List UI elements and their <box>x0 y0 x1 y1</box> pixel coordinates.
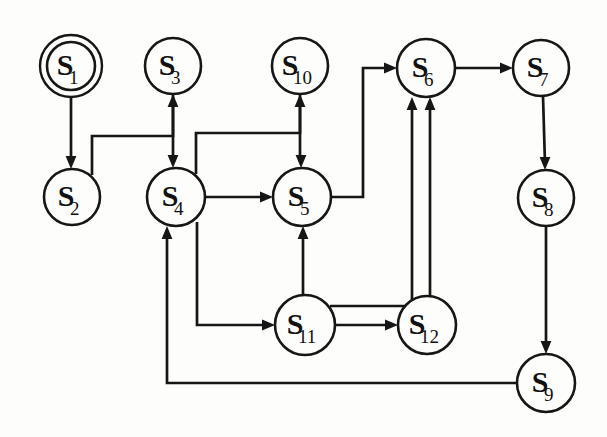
edge-s5-s6-arrowhead <box>384 63 397 74</box>
state-node-s7[interactable]: S7 <box>513 40 569 96</box>
edge-s6-s7-arrowhead <box>500 63 513 74</box>
edge-s9-s4-arrowhead <box>162 226 173 239</box>
edge-s1-s2 <box>66 97 77 169</box>
edge-s7-s8 <box>540 96 551 170</box>
edge-s11-s12-arrowhead <box>385 320 398 331</box>
state-node-s6[interactable]: S6 <box>397 39 455 97</box>
edge-s12-s6-arrowhead <box>425 97 436 110</box>
edge-s4-s10 <box>196 94 305 174</box>
edge-s7-s8-arrowhead <box>540 157 551 170</box>
edge-s4-s5-arrowhead <box>260 192 273 203</box>
edge-s11-s6-arrowhead <box>407 97 418 110</box>
edge-s3-s4-arrowhead <box>168 155 179 168</box>
edge-s10-s5-arrowhead <box>296 155 307 168</box>
state-diagram-canvas: S1S2S3S4S5S6S7S8S9S10S11S12 <box>0 0 607 437</box>
state-node-s12[interactable]: S12 <box>398 296 456 354</box>
edge-s5-s6 <box>331 63 397 197</box>
state-diagram-container: S1S2S3S4S5S6S7S8S9S10S11S12 <box>0 0 607 437</box>
edge-s1-s2-arrowhead <box>66 156 77 169</box>
state-node-s4[interactable]: S4 <box>147 168 205 226</box>
state-node-s11[interactable]: S11 <box>275 295 335 355</box>
edge-s5-s6-line <box>331 68 391 197</box>
state-node-s9[interactable]: S9 <box>517 354 575 412</box>
edge-s9-s4-line <box>167 232 517 383</box>
state-node-s5-subscript: 5 <box>300 198 310 219</box>
state-node-s1[interactable]: S1 <box>40 35 102 97</box>
state-node-s8[interactable]: S8 <box>518 170 574 226</box>
edge-s6-s7 <box>455 63 513 74</box>
state-node-s8-subscript: 8 <box>544 199 554 220</box>
edge-s8-s9-arrowhead <box>541 341 552 354</box>
edge-s4-s11-arrowhead <box>262 320 275 331</box>
state-node-s4-subscript: 4 <box>174 198 184 219</box>
state-node-s12-subscript: 12 <box>420 326 439 347</box>
state-node-s10[interactable]: S10 <box>272 38 328 94</box>
state-node-s6-subscript: 6 <box>424 69 434 90</box>
edge-s2-s3 <box>92 94 178 175</box>
edge-s9-s4 <box>162 226 517 383</box>
nodes-layer: S1S2S3S4S5S6S7S8S9S10S11S12 <box>40 35 575 412</box>
edge-s11-s12 <box>335 320 398 331</box>
state-node-s3-subscript: 3 <box>171 67 181 88</box>
edge-s11-s5-arrowhead <box>298 226 309 239</box>
state-node-s3[interactable]: S3 <box>145 38 201 94</box>
state-node-s11-subscript: 11 <box>298 326 316 347</box>
edge-s4-s5 <box>205 192 273 203</box>
state-node-s9-subscript: 9 <box>544 384 554 405</box>
edge-s11-s6 <box>330 97 417 306</box>
edge-s4-s10-line <box>196 100 300 174</box>
state-node-s2[interactable]: S2 <box>44 169 100 225</box>
state-node-s5[interactable]: S5 <box>273 168 331 226</box>
state-node-s7-subscript: 7 <box>539 69 549 90</box>
edge-s4-s11 <box>197 222 275 330</box>
edge-s8-s9 <box>541 226 552 354</box>
edge-s7-s8-line <box>543 96 545 164</box>
state-node-s1-subscript: 1 <box>69 67 79 88</box>
edge-s11-s6-line <box>330 103 412 306</box>
edge-s4-s11-line <box>197 222 269 325</box>
edge-s12-s6 <box>425 97 436 296</box>
edge-s2-s3-line <box>92 100 173 175</box>
state-node-s2-subscript: 2 <box>70 198 80 219</box>
edge-s11-s5 <box>298 226 309 295</box>
state-node-s10-subscript: 10 <box>293 67 312 88</box>
